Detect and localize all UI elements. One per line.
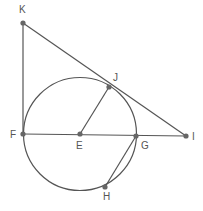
- label-F: F: [10, 129, 16, 140]
- point-K: [20, 20, 25, 25]
- diagram-shapes: [23, 23, 186, 191]
- segment-GH: [105, 136, 136, 187]
- geometry-diagram: KJFEGIH: [0, 0, 203, 211]
- label-H: H: [103, 191, 110, 202]
- label-J: J: [113, 72, 118, 83]
- segment-EJ: [80, 87, 109, 134]
- point-J: [106, 84, 111, 89]
- label-G: G: [141, 140, 149, 151]
- diagram-points: [20, 20, 188, 189]
- point-E: [77, 131, 82, 136]
- point-H: [102, 184, 107, 189]
- point-I: [183, 133, 188, 138]
- point-G: [133, 133, 138, 138]
- label-I: I: [192, 131, 195, 142]
- segment-KI: [23, 23, 186, 136]
- label-K: K: [19, 4, 26, 15]
- segment-FI: [23, 134, 186, 136]
- label-E: E: [76, 140, 83, 151]
- point-F: [20, 131, 25, 136]
